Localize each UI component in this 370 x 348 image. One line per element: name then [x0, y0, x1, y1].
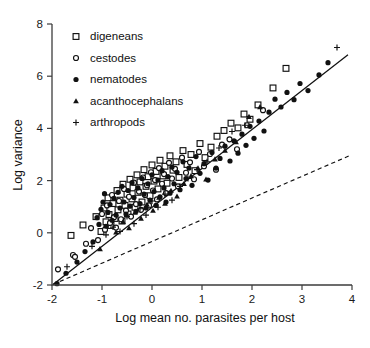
- data-point: [213, 165, 218, 170]
- data-point: [73, 254, 78, 259]
- x-tick-label: 4: [349, 293, 356, 305]
- legend-label: cestodes: [90, 52, 136, 64]
- data-point: [161, 185, 166, 190]
- data-point: [227, 137, 232, 142]
- data-point: [149, 162, 155, 168]
- data-point: [127, 204, 132, 209]
- legend-item-cestodes[interactable]: cestodes: [74, 52, 137, 64]
- x-tick-label: 0: [149, 293, 155, 305]
- x-tick-label: 2: [249, 293, 255, 305]
- y-axis-title: Log variance: [11, 119, 25, 191]
- x-axis-title: Log mean no. parasites per host: [115, 311, 295, 325]
- data-point: [149, 172, 154, 177]
- figure-container: -2-101234-202468 digeneanscestodesnemato…: [0, 0, 370, 348]
- data-point: [176, 175, 182, 181]
- legend-item-acanthocephalans[interactable]: acanthocephalans: [73, 95, 183, 107]
- legend-label: nematodes: [90, 73, 147, 85]
- data-point: [228, 120, 234, 126]
- data-point: [169, 164, 174, 169]
- data-point: [94, 215, 99, 220]
- data-point: [102, 191, 107, 196]
- data-point: [115, 190, 120, 195]
- data-point: [151, 189, 156, 194]
- data-point: [334, 45, 340, 51]
- data-point: [325, 60, 330, 65]
- data-point: [316, 72, 321, 77]
- data-point: [197, 149, 202, 154]
- x-tick-label: -1: [97, 293, 107, 305]
- data-point: [100, 199, 105, 204]
- data-point: [134, 172, 140, 178]
- data-point: [272, 97, 277, 102]
- data-point: [217, 156, 222, 161]
- data-point: [291, 97, 296, 102]
- data-point: [173, 159, 179, 165]
- data-point: [126, 225, 132, 230]
- data-point: [135, 185, 140, 190]
- data-point: [63, 271, 68, 276]
- data-point: [241, 111, 247, 117]
- y-tick-label: 0: [37, 227, 43, 239]
- data-point: [297, 81, 302, 86]
- data-point: [208, 144, 214, 150]
- data-point: [209, 150, 214, 155]
- data-point: [197, 141, 203, 147]
- data-point: [74, 259, 79, 264]
- data-point: [235, 151, 240, 156]
- data-point: [131, 195, 136, 200]
- data-point: [251, 136, 256, 141]
- legend-item-digeneans[interactable]: digeneans: [73, 30, 143, 42]
- data-point: [188, 160, 193, 165]
- data-point: [171, 181, 176, 186]
- y-tick-label: 2: [37, 175, 43, 187]
- data-point: [256, 118, 261, 123]
- data-point: [174, 193, 180, 198]
- data-point: [168, 188, 174, 193]
- data-point: [247, 124, 252, 129]
- filled-circle-icon: [73, 77, 78, 82]
- data-point: [109, 218, 114, 223]
- data-point: [284, 90, 289, 95]
- data-point: [229, 129, 235, 135]
- data-point: [64, 264, 70, 270]
- legend-label: digeneans: [90, 30, 143, 42]
- y-tick-label: 8: [37, 18, 43, 30]
- data-point: [68, 233, 74, 239]
- regression-line: [53, 55, 348, 285]
- data-point: [159, 168, 164, 173]
- data-point: [141, 167, 147, 173]
- data-point: [278, 104, 283, 109]
- open-square-icon: [73, 34, 79, 40]
- data-point: [129, 180, 134, 185]
- data-point: [243, 143, 248, 148]
- data-point: [157, 157, 163, 163]
- data-point: [283, 65, 289, 71]
- y-tick-label: 4: [37, 122, 44, 134]
- data-point: [117, 205, 122, 210]
- data-point: [189, 183, 194, 188]
- x-tick-label: -2: [47, 293, 57, 305]
- data-point: [125, 188, 130, 193]
- filled-triangle-icon: [73, 98, 79, 103]
- data-point: [261, 128, 266, 133]
- open-circle-icon: [74, 56, 79, 61]
- data-point: [145, 181, 150, 186]
- legend-item-arthropods[interactable]: arthropods: [73, 116, 145, 128]
- data-point: [96, 238, 101, 243]
- legend-item-nematodes[interactable]: nematodes: [73, 73, 147, 85]
- data-point: [139, 176, 144, 181]
- data-point: [89, 226, 94, 231]
- data-point: [119, 184, 124, 189]
- data-point: [113, 212, 118, 217]
- data-point: [186, 165, 191, 170]
- data-point: [121, 199, 126, 204]
- data-point: [197, 171, 202, 176]
- y-tick-label: 6: [37, 70, 43, 82]
- data-point: [96, 222, 101, 227]
- data-point: [56, 267, 61, 272]
- data-point: [235, 125, 241, 131]
- legend-label: arthropods: [90, 116, 145, 128]
- data-point: [137, 201, 142, 206]
- data-point: [155, 177, 160, 182]
- data-point: [139, 207, 144, 212]
